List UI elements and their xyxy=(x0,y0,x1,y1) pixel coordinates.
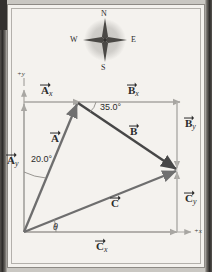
vector-arrow-glyph xyxy=(184,190,195,196)
compass-label-south: S xyxy=(101,64,105,72)
vector-by-subscript: y xyxy=(192,122,196,131)
vector-arrow-glyph xyxy=(129,123,139,129)
figure-page: N E S W +y +x Ax Bx 35.0° xyxy=(0,0,212,272)
vector-arrow-glyph xyxy=(127,82,137,88)
vector-b-arrow xyxy=(78,103,176,169)
compass-label-north: N xyxy=(101,10,107,18)
vector-cx-label: Cx xyxy=(96,241,107,254)
vector-arrow-glyph xyxy=(40,82,51,88)
vector-ax-subscript: x xyxy=(49,89,53,98)
compass-label-east: E xyxy=(131,36,136,44)
compass-label-west: W xyxy=(70,36,78,44)
vector-a-label: A xyxy=(51,133,59,144)
angle-a-arc xyxy=(24,172,46,178)
vector-arrow-glyph xyxy=(50,130,61,136)
vector-by-label: By xyxy=(185,118,196,131)
angle-a-label: 20.0° xyxy=(31,155,52,164)
vector-arrow-glyph xyxy=(6,152,17,158)
vector-bx-subscript: x xyxy=(135,89,139,98)
vector-arrow-glyph xyxy=(95,238,106,244)
angle-b-label: 35.0° xyxy=(100,103,121,112)
vector-cy-subscript: y xyxy=(193,197,197,206)
vector-b-label: B xyxy=(130,126,137,137)
vector-diagram-canvas xyxy=(0,0,212,272)
x-axis-label: +x xyxy=(194,228,202,235)
vector-c-arrow xyxy=(24,171,176,232)
vector-ay-subscript: y xyxy=(15,159,19,168)
angle-theta-label: θ xyxy=(53,222,58,232)
vector-bx-label: Bx xyxy=(128,85,139,98)
vector-cx-subscript: x xyxy=(104,245,108,254)
vector-ax-label: Ax xyxy=(41,85,52,98)
vector-arrow-glyph xyxy=(184,115,194,121)
vector-arrow-glyph xyxy=(110,195,121,201)
vector-c-label: C xyxy=(111,198,119,209)
vector-ay-label: Ay xyxy=(7,155,18,168)
y-axis-label: +y xyxy=(17,71,25,78)
vector-cy-label: Cy xyxy=(185,193,196,206)
compass-rose-icon xyxy=(83,18,127,62)
